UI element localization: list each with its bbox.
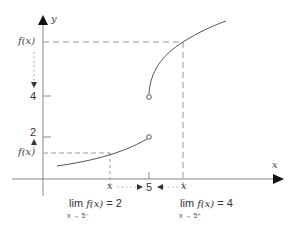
limit-right-func: f(x) bbox=[197, 198, 214, 209]
limit-left-rhs: = 2 bbox=[106, 197, 122, 209]
arrow-down-icon bbox=[31, 82, 37, 88]
limit-diagram bbox=[0, 0, 293, 231]
fx-lower-label: f(x) bbox=[18, 147, 35, 157]
tick-label-y-4: 4 bbox=[30, 91, 36, 102]
y-axis-label: y bbox=[51, 14, 57, 24]
limit-right-expression: lim f(x) = 4 bbox=[180, 198, 233, 209]
open-circle-left-limit bbox=[147, 135, 152, 140]
x-right-label: x bbox=[181, 181, 187, 191]
x-left-label: x bbox=[107, 181, 113, 191]
limit-left-expression: lim f(x) = 2 bbox=[69, 198, 122, 209]
tick-label-y-2: 2 bbox=[30, 127, 36, 138]
x-axis-label: x bbox=[272, 160, 278, 170]
arrow-right-icon bbox=[137, 184, 143, 190]
arrow-left-icon bbox=[157, 184, 163, 190]
curve-right-branch bbox=[149, 21, 226, 94]
y-axis-arrow-icon bbox=[38, 15, 48, 25]
limit-right-subscript: x → 5⁺ bbox=[179, 212, 201, 219]
open-circle-right-limit bbox=[147, 95, 152, 100]
limit-right-rhs: = 4 bbox=[217, 197, 233, 209]
x-axis-arrow-icon bbox=[273, 174, 284, 184]
fx-upper-label: f(x) bbox=[18, 36, 35, 46]
arrow-up-icon bbox=[31, 139, 37, 145]
limit-left-subscript: x → 5⁻ bbox=[67, 212, 89, 219]
limit-left-func: f(x) bbox=[86, 198, 103, 209]
tick-label-x-5: 5 bbox=[146, 182, 152, 193]
limit-right-lim: lim bbox=[180, 197, 194, 209]
limit-left-lim: lim bbox=[69, 197, 83, 209]
